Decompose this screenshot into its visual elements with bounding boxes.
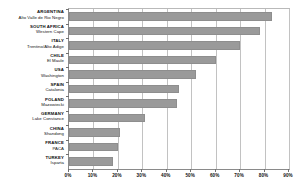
category-label-column: ARGENTINAAlto Valle de Rio NegroSOUTH AF… <box>0 8 66 168</box>
plot-area <box>68 8 290 170</box>
bar <box>69 12 272 21</box>
x-axis-tick <box>92 169 93 172</box>
x-axis: 0%10%20%30%40%50%60%70%80%90% <box>68 169 289 187</box>
y-axis-tick <box>66 53 69 54</box>
category-label: TURKEYIsparta <box>0 156 64 166</box>
bar <box>69 41 240 50</box>
y-axis-tick <box>66 154 69 155</box>
x-axis-tick-label: 20% <box>112 173 122 178</box>
y-axis-tick <box>66 67 69 68</box>
y-axis-tick <box>66 125 69 126</box>
x-axis-tick <box>190 169 191 172</box>
x-axis-tick-label: 60% <box>210 173 220 178</box>
x-axis-tick-label: 10% <box>88 173 98 178</box>
y-axis-tick <box>66 96 69 97</box>
region-label: Isparta <box>0 161 64 165</box>
region-label: Catalonia <box>0 88 64 92</box>
bar <box>69 143 118 152</box>
x-axis-tick-label: 80% <box>259 173 269 178</box>
x-axis-tick-label: 30% <box>137 173 147 178</box>
country-label: FRANCE <box>0 141 64 145</box>
x-axis-tick <box>288 169 289 172</box>
category-label: ITALYTrentino/Alto Adige <box>0 39 64 49</box>
bar <box>69 128 120 137</box>
category-label: USAWashington <box>0 68 64 78</box>
bar <box>69 114 145 123</box>
region-label: El Maule <box>0 59 64 63</box>
region-label: Western Cape <box>0 30 64 34</box>
y-axis-tick <box>66 24 69 25</box>
x-axis-tick-label: 0% <box>65 173 72 178</box>
y-axis-tick <box>66 38 69 39</box>
y-axis-tick <box>66 9 69 10</box>
x-axis-tick <box>166 169 167 172</box>
category-label: SPAINCatalonia <box>0 83 64 93</box>
category-label: POLANDMazowiecki <box>0 98 64 108</box>
bar <box>69 70 196 79</box>
region-label: Shandong <box>0 132 64 136</box>
category-label: CHINAShandong <box>0 127 64 137</box>
bar <box>69 157 113 166</box>
gridline-90 <box>289 9 290 169</box>
y-axis-tick <box>66 111 69 112</box>
x-axis-tick <box>215 169 216 172</box>
region-label: PACA <box>0 147 64 151</box>
category-label: GERMANYLake Constance <box>0 112 64 122</box>
category-label: CHILEEl Maule <box>0 54 64 64</box>
bar <box>69 56 216 65</box>
region-label: Mazowiecki <box>0 103 64 107</box>
x-axis-tick <box>264 169 265 172</box>
bar <box>69 99 177 108</box>
bar <box>69 85 179 94</box>
region-label: Alto Valle de Rio Negro <box>0 16 64 20</box>
category-label: FRANCEPACA <box>0 141 64 151</box>
region-label: Trentino/Alto Adige <box>0 45 64 49</box>
y-axis-tick <box>66 82 69 83</box>
bar <box>69 27 260 36</box>
country-label: ITALY <box>0 39 64 43</box>
region-label: Lake Constance <box>0 117 64 121</box>
bar-series <box>69 9 289 169</box>
x-axis-tick <box>141 169 142 172</box>
bar-chart: ARGENTINAAlto Valle de Rio NegroSOUTH AF… <box>0 0 301 191</box>
y-axis-tick <box>66 140 69 141</box>
x-axis-tick <box>68 169 69 172</box>
category-label: ARGENTINAAlto Valle de Rio Negro <box>0 10 64 20</box>
x-axis-tick <box>239 169 240 172</box>
region-label: Washington <box>0 74 64 78</box>
country-label: ARGENTINA <box>0 10 64 14</box>
x-axis-tick-label: 90% <box>283 173 293 178</box>
x-axis-tick-label: 40% <box>161 173 171 178</box>
category-label: SOUTH AFRICAWestern Cape <box>0 25 64 35</box>
x-axis-tick-label: 50% <box>185 173 195 178</box>
x-axis-tick <box>117 169 118 172</box>
x-axis-tick-label: 70% <box>234 173 244 178</box>
